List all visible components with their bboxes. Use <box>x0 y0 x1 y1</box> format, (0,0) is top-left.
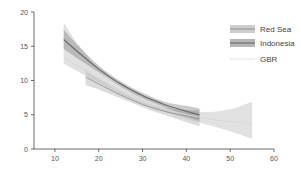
x-tick-label: 20 <box>95 155 103 162</box>
x-tick-label: 10 <box>51 155 59 162</box>
y-tick-label: 20 <box>20 9 28 16</box>
y-tick-label: 0 <box>24 146 28 153</box>
legend-label-red-sea: Red Sea <box>260 25 292 34</box>
y-tick-label: 10 <box>20 77 28 84</box>
x-tick-label: 40 <box>182 155 190 162</box>
legend-label-gbr: GBR <box>260 55 278 64</box>
legend-label-indonesia: Indonesia <box>260 39 295 48</box>
legend: Red Sea Indonesia GBR <box>230 25 295 64</box>
legend-item-gbr[interactable]: GBR <box>230 55 278 64</box>
x-ticks: 102030405060 <box>51 149 278 162</box>
legend-item-indonesia[interactable]: Indonesia <box>230 39 295 48</box>
x-tick-label: 50 <box>226 155 234 162</box>
line-chart: 05101520 102030405060 Red Sea Indonesia … <box>0 0 301 173</box>
y-tick-label: 5 <box>24 111 28 118</box>
x-tick-label: 30 <box>139 155 147 162</box>
trend-line-indonesia <box>64 39 200 114</box>
legend-item-red-sea[interactable]: Red Sea <box>230 25 292 34</box>
x-tick-label: 60 <box>270 155 278 162</box>
y-ticks: 05101520 <box>20 9 34 153</box>
y-tick-label: 15 <box>20 43 28 50</box>
ci-band-indonesia <box>64 30 200 121</box>
